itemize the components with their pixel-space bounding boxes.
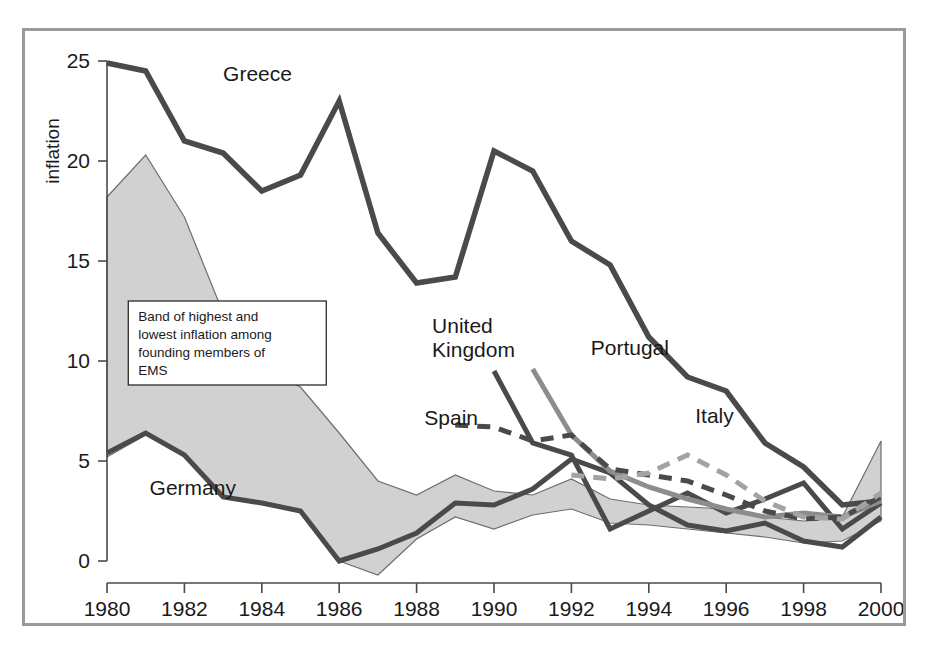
inflation-line-chart: 0510152025 19801982198419861988199019921…: [25, 31, 903, 623]
x-tick-label: 2000: [858, 597, 903, 620]
chart-frame: 0510152025 19801982198419861988199019921…: [22, 28, 906, 626]
ems-band-annotation: Band of highest andlowest inflation amon…: [128, 301, 326, 385]
x-tick-label: 1994: [625, 597, 672, 620]
y-tick-label: 15: [67, 249, 90, 272]
x-tick-label: 1996: [703, 597, 750, 620]
x-tick-label: 1984: [238, 597, 285, 620]
x-tick-label: 1980: [84, 597, 131, 620]
series-label-germany: Germany: [150, 476, 237, 499]
y-axis-ticks: 0510152025: [67, 49, 107, 572]
series-label-italy: Italy: [695, 404, 734, 427]
x-tick-label: 1988: [393, 597, 440, 620]
x-tick-label: 1990: [471, 597, 518, 620]
series-label-greece: Greece: [223, 62, 292, 85]
y-tick-label: 20: [67, 149, 90, 172]
y-tick-label: 25: [67, 49, 90, 72]
x-tick-label: 1986: [316, 597, 363, 620]
series-label-portugal: Portugal: [591, 336, 669, 359]
x-tick-label: 1982: [161, 597, 208, 620]
y-tick-label: 10: [67, 349, 90, 372]
x-tick-label: 1998: [780, 597, 827, 620]
series-label-spain: Spain: [424, 406, 478, 429]
series-label-united-kingdom: UnitedKingdom: [432, 314, 515, 361]
y-tick-label: 5: [78, 449, 90, 472]
y-axis-title: inflation: [42, 118, 63, 184]
x-axis-ticks: 1980198219841986198819901992199419961998…: [84, 583, 903, 620]
figure-root: 0510152025 19801982198419861988199019921…: [0, 0, 936, 654]
x-tick-label: 1992: [548, 597, 595, 620]
y-tick-label: 0: [78, 549, 90, 572]
